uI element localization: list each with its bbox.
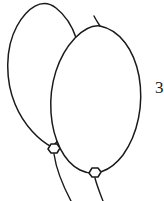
balloon-drawing-svg: [0, 0, 164, 201]
cropped-edge-character: 3: [155, 78, 164, 98]
balloon-front-knot-icon: [89, 168, 101, 177]
balloon-illustration: 3: [0, 0, 164, 201]
